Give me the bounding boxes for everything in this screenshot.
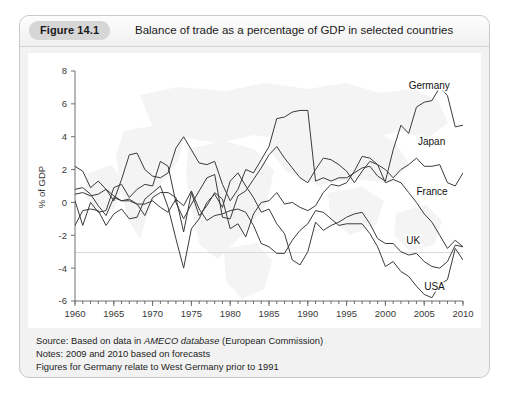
y-tick-label: 0 [62,197,67,208]
line-chart: 86420-2-4-6 1960196519701975198019851990… [28,53,481,328]
source-database-name: AMECO database [144,335,220,346]
chart-plot-panel: 86420-2-4-6 1960196519701975198019851990… [28,53,481,328]
y-axis: 86420-2-4-6 [59,65,75,306]
x-tick-label: 1980 [220,308,241,319]
x-axis: 1960196519701975198019851990199520002005… [64,301,473,319]
y-tick-label: 4 [62,131,67,142]
x-tick-label: 1995 [336,308,357,319]
note-forecasts: Notes: 2009 and 2010 based on forecasts [36,347,476,360]
series-label-germany: Germany [409,80,450,91]
x-tick-label: 2010 [452,308,473,319]
x-tick-label: 1965 [103,308,124,319]
figure-container: Figure 14.1 Balance of trade as a percen… [19,15,490,378]
note-source: Source: Based on data in AMECO database … [36,334,476,347]
source-suffix: (European Commission) [219,335,323,346]
figure-header: Figure 14.1 Balance of trade as a percen… [20,16,489,47]
x-tick-label: 1985 [258,308,279,319]
y-axis-title: % of GDP [36,166,47,208]
figure-notes: Source: Based on data in AMECO database … [36,334,476,374]
x-tick-label: 1970 [142,308,163,319]
x-tick-label: 1990 [297,308,318,319]
figure-title: Balance of trade as a percentage of GDP … [135,21,453,40]
note-germany: Figures for Germany relate to West Germa… [36,360,476,373]
series-label-usa: USA [424,281,445,292]
y-tick-label: 8 [62,65,67,76]
source-prefix: Source: Based on data in [36,335,144,346]
y-tick-label: -6 [59,295,67,306]
x-tick-label: 1975 [181,308,202,319]
series-label-uk: UK [406,235,420,246]
series-label-france: France [416,186,448,197]
world-map-watermark [84,83,448,299]
figure-number-badge: Figure 14.1 [29,21,110,40]
series-label-japan: Japan [418,136,445,147]
y-tick-label: 6 [62,98,67,109]
y-tick-label: -2 [59,230,67,241]
y-tick-label: -4 [59,263,67,274]
y-tick-label: 2 [62,164,67,175]
x-tick-label: 2005 [414,308,435,319]
x-tick-label: 1960 [64,308,85,319]
x-tick-label: 2000 [375,308,396,319]
